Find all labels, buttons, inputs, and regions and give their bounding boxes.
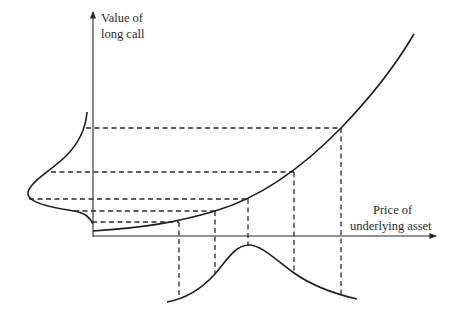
x-axis-label-line2: underlying asset — [350, 219, 432, 233]
asset-price-distribution — [167, 245, 357, 302]
call-value-diagram: Value of long call Price of underlying a… — [0, 0, 454, 320]
y-axis-label-line1: Value of — [101, 11, 144, 25]
call-value-distribution — [28, 112, 93, 224]
x-axis-label-line1: Price of — [373, 203, 413, 217]
y-axis-label-line2: long call — [101, 27, 145, 41]
call-value-curve — [93, 34, 414, 231]
